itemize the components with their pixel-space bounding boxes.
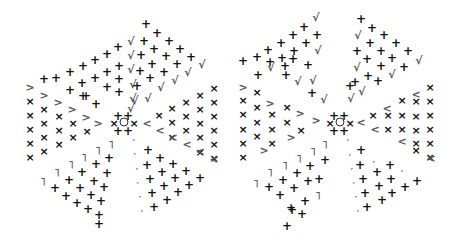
cross-icon: × [252, 117, 261, 128]
plus-icon: + [91, 98, 101, 110]
plus-icon: + [391, 37, 401, 49]
chevron-right-icon: > [295, 108, 304, 119]
cross-icon: × [181, 111, 190, 122]
cross-icon: × [411, 145, 420, 156]
plus-icon: + [287, 204, 297, 216]
corner-up-right-icon: ˥ [81, 152, 87, 163]
plus-icon: + [75, 182, 85, 194]
cross-icon: × [25, 124, 34, 135]
plus-icon: + [379, 29, 389, 41]
chevron-right-icon: > [238, 82, 247, 93]
plus-icon: + [145, 72, 155, 84]
cross-icon: × [425, 138, 434, 149]
chevron-right-icon: > [25, 82, 34, 93]
corner-up-left-icon: ˹ [138, 195, 142, 206]
plus-icon: + [345, 80, 355, 92]
plus-icon: + [172, 58, 182, 70]
cross-icon: × [368, 110, 377, 121]
plus-icon: + [159, 180, 169, 192]
plus-icon: + [300, 195, 310, 207]
hexagon-panel-left: √+√+++√++++++++√++++√+√++++++++++√++√++√… [0, 0, 228, 242]
plus-icon: + [363, 70, 373, 82]
plus-icon: + [195, 172, 205, 184]
center-ring-icon [336, 118, 345, 127]
plus-icon: + [152, 27, 162, 39]
corner-up-right-icon: ˥ [310, 146, 316, 157]
cross-icon: × [238, 152, 247, 163]
corner-up-right-icon: ˥ [253, 178, 259, 189]
plus-icon: + [83, 203, 93, 215]
check-icon: √ [171, 75, 178, 86]
corner-up-left-icon: ˹ [140, 209, 144, 220]
cross-icon: × [252, 102, 261, 113]
corner-up-right-icon: ˥ [54, 167, 60, 178]
cross-icon: × [425, 82, 434, 93]
plus-icon: + [114, 60, 124, 72]
check-icon: √ [198, 59, 205, 70]
corner-up-right-icon: ˥ [315, 190, 321, 201]
check-icon: √ [157, 82, 164, 93]
cross-icon: × [82, 126, 91, 137]
plus-icon: + [186, 51, 196, 63]
corner-up-right-icon: ˥ [322, 139, 328, 150]
plus-icon: + [78, 60, 88, 72]
plus-icon: + [51, 72, 61, 84]
plus-icon: + [387, 187, 397, 199]
plus-icon: + [114, 73, 124, 85]
plus-icon: + [149, 201, 159, 213]
cross-icon: × [411, 125, 420, 136]
cross-icon: × [238, 124, 247, 135]
cross-icon: × [167, 103, 176, 114]
plus-icon: + [94, 218, 104, 230]
cross-icon: × [195, 132, 204, 143]
plus-icon: + [114, 86, 124, 98]
plus-icon: + [113, 41, 123, 53]
plus-icon: + [278, 174, 288, 186]
plus-icon: + [164, 35, 174, 47]
plus-icon: + [161, 50, 171, 62]
plus-icon: + [64, 174, 74, 186]
plus-icon: + [89, 175, 99, 187]
plus-icon: + [168, 158, 178, 170]
cross-icon: × [167, 117, 176, 128]
plus-icon: + [184, 179, 194, 191]
cross-icon: × [25, 138, 34, 149]
cross-icon: × [209, 97, 218, 108]
cross-icon: × [181, 97, 190, 108]
check-icon: √ [294, 76, 301, 87]
plus-icon: + [362, 201, 372, 213]
plus-icon: + [297, 208, 307, 220]
plus-icon: + [339, 125, 349, 137]
plus-icon: + [292, 167, 302, 179]
plus-icon: + [356, 13, 366, 25]
cross-icon: × [39, 132, 48, 143]
plus-icon: + [173, 186, 183, 198]
cross-icon: × [25, 152, 34, 163]
cross-icon: × [238, 95, 247, 106]
chevron-left-icon: < [411, 89, 420, 100]
cross-icon: × [383, 124, 392, 135]
plus-icon: + [367, 22, 377, 34]
check-icon: √ [267, 62, 274, 73]
cross-icon: × [25, 110, 34, 121]
plus-icon: + [162, 194, 172, 206]
corner-up-left-icon: ˹ [135, 167, 139, 178]
plus-icon: + [355, 159, 365, 171]
chevron-right-icon: > [286, 132, 295, 143]
plus-icon: + [139, 35, 149, 47]
plus-icon: + [61, 190, 71, 202]
plus-icon: + [65, 66, 75, 78]
plus-icon: + [299, 21, 309, 33]
plus-icon: + [412, 175, 422, 187]
plus-icon: + [143, 144, 153, 156]
check-icon: √ [347, 93, 354, 104]
plus-icon: + [141, 18, 151, 30]
plus-icon: + [147, 187, 157, 199]
check-icon: √ [144, 93, 151, 104]
cross-icon: × [195, 104, 204, 115]
plus-icon: + [145, 173, 155, 185]
plus-icon: + [90, 72, 100, 84]
plus-icon: + [135, 65, 145, 77]
corner-up-left-icon: ˹ [350, 167, 354, 178]
cross-icon: × [195, 118, 204, 129]
